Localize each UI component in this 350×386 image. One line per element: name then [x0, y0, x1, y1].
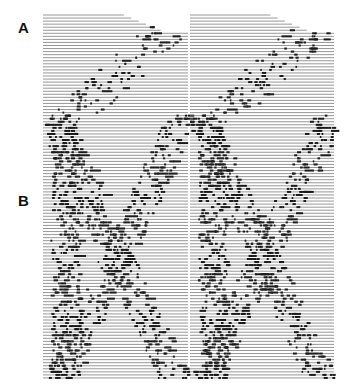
spike-marker	[266, 243, 270, 245]
spike-marker	[204, 258, 208, 260]
spike-marker	[91, 298, 94, 300]
spike-marker	[226, 221, 228, 223]
spike-marker	[291, 185, 293, 187]
spike-marker	[226, 301, 230, 303]
spike-marker	[102, 304, 105, 306]
spike-marker	[120, 240, 122, 242]
spike-marker	[121, 285, 125, 287]
spike-marker	[154, 173, 156, 175]
spike-marker	[237, 185, 247, 187]
spike-marker	[125, 261, 127, 263]
spike-marker	[99, 185, 102, 187]
spike-marker	[144, 224, 147, 226]
spike-marker	[302, 176, 306, 178]
spike-marker	[244, 307, 246, 309]
spike-marker	[236, 209, 239, 211]
spike-marker	[262, 72, 266, 74]
spike-marker	[283, 298, 287, 300]
spike-marker	[113, 249, 116, 251]
spike-marker	[215, 368, 219, 370]
spike-marker	[161, 191, 165, 193]
spike-marker	[130, 270, 132, 272]
spike-marker	[223, 218, 227, 220]
spike-marker	[119, 246, 122, 248]
spike-marker	[266, 295, 270, 297]
spike-marker	[213, 130, 215, 132]
spike-marker	[332, 127, 336, 129]
spike-marker	[212, 252, 215, 254]
spike-marker	[328, 127, 331, 129]
spike-marker	[223, 167, 227, 169]
spike-marker	[311, 350, 313, 352]
spike-marker	[112, 279, 115, 281]
spike-marker	[107, 81, 111, 83]
spike-marker	[160, 362, 164, 364]
spike-marker	[324, 368, 326, 370]
spike-marker	[96, 301, 100, 303]
spike-marker	[220, 182, 230, 184]
spike-marker	[205, 368, 208, 370]
spike-marker	[91, 200, 94, 202]
spike-marker	[79, 331, 82, 333]
spike-marker	[102, 319, 106, 321]
spike-marker	[71, 234, 74, 236]
spike-marker	[219, 133, 222, 135]
spike-marker	[205, 377, 208, 379]
spike-marker	[198, 118, 200, 120]
spike-marker	[76, 292, 78, 294]
spike-marker	[260, 84, 262, 86]
spike-marker	[135, 194, 139, 196]
spike-marker	[320, 145, 322, 147]
spike-marker	[258, 102, 262, 104]
spike-marker	[60, 359, 64, 361]
spike-marker	[320, 136, 322, 138]
spike-marker	[313, 334, 317, 336]
spike-marker	[211, 298, 214, 300]
spike-marker	[173, 356, 175, 358]
spike-marker	[330, 139, 334, 141]
spike-marker	[73, 218, 77, 220]
spike-marker	[50, 368, 52, 370]
spike-marker	[322, 374, 326, 376]
spike-marker	[177, 142, 180, 144]
spike-marker	[145, 35, 151, 37]
spike-marker	[317, 362, 320, 364]
spike-marker	[106, 246, 110, 248]
spike-marker	[223, 362, 227, 364]
spike-marker	[111, 75, 114, 77]
spike-marker	[105, 307, 107, 309]
spike-marker	[275, 276, 278, 278]
spike-marker	[162, 136, 164, 138]
spike-marker	[227, 179, 231, 181]
spike-marker	[279, 270, 282, 272]
spike-marker	[251, 243, 253, 245]
spike-marker	[213, 212, 217, 214]
spike-marker	[200, 163, 204, 165]
spike-marker	[324, 139, 327, 141]
spike-marker	[59, 246, 63, 248]
spike-marker	[225, 374, 229, 376]
spike-marker	[214, 145, 216, 147]
spike-marker	[330, 374, 332, 376]
spike-marker	[152, 322, 156, 324]
spike-marker	[289, 176, 292, 178]
spike-marker	[218, 282, 222, 284]
spike-marker	[100, 206, 104, 208]
spike-marker	[306, 145, 309, 147]
spike-marker	[80, 148, 83, 150]
spike-marker	[70, 99, 74, 101]
spike-marker	[165, 365, 167, 367]
spike-marker	[207, 234, 209, 236]
spike-marker	[72, 228, 75, 230]
spike-marker	[299, 212, 303, 214]
spike-marker	[297, 319, 300, 321]
spike-marker	[298, 188, 301, 190]
spike-marker	[229, 93, 231, 95]
spike-marker	[331, 136, 334, 138]
spike-marker	[131, 319, 134, 321]
spike-marker	[165, 145, 168, 147]
spike-marker	[286, 182, 289, 184]
spike-marker	[67, 160, 71, 162]
spike-marker	[91, 78, 95, 80]
spike-marker	[78, 157, 82, 159]
